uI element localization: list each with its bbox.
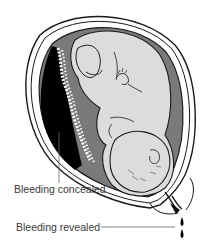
label-bleeding-revealed: Bleeding revealed — [16, 222, 100, 233]
blood-drops — [181, 217, 184, 238]
label-bleeding-concealed: Bleeding concealed — [14, 184, 106, 195]
abruption-diagram — [0, 0, 204, 247]
